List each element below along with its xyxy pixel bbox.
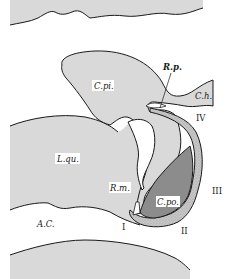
label-ii: II	[181, 226, 188, 236]
top-tissue-band	[10, 0, 203, 25]
label-c-h: C.h.	[195, 91, 212, 101]
label-a-c: A.C.	[36, 219, 55, 229]
anatomical-diagram: C.pi. R.p. C.h. IV L.qu. R.m. C.po. III …	[0, 0, 227, 279]
label-l-qu: L.qu.	[56, 154, 79, 164]
label-i: I	[122, 222, 125, 232]
label-iii: III	[212, 186, 222, 196]
label-r-p: R.p.	[162, 62, 182, 72]
label-c-po: C.po.	[157, 197, 179, 207]
label-r-m: R.m.	[109, 183, 130, 193]
label-iv: IV	[196, 113, 206, 123]
lobe-l-qu	[10, 108, 149, 225]
label-c-pi: C.pi.	[94, 81, 114, 91]
structure-r-p-slit	[146, 103, 166, 108]
bottom-tissue-band	[10, 240, 190, 279]
